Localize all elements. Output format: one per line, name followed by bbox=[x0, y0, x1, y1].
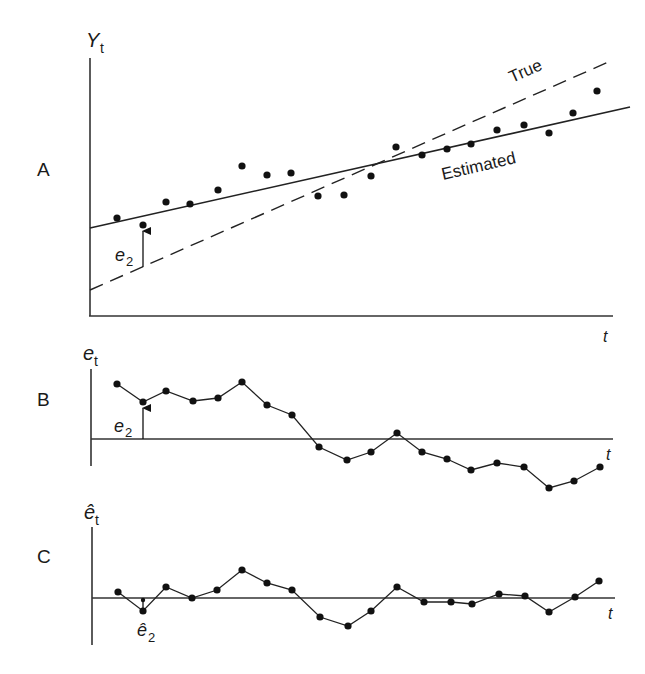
estimated-regression-line bbox=[90, 107, 630, 228]
data-point bbox=[162, 198, 169, 205]
data-point bbox=[493, 126, 500, 133]
y-axis-label-subscript: t bbox=[94, 353, 98, 369]
e2-hat-label-sub: 2 bbox=[148, 630, 155, 645]
data-point bbox=[545, 484, 552, 491]
data-point bbox=[113, 380, 120, 387]
data-point bbox=[596, 463, 603, 470]
e2-label-b-base: e bbox=[114, 416, 124, 436]
data-point bbox=[393, 429, 400, 436]
data-point bbox=[288, 411, 295, 418]
data-point bbox=[186, 200, 193, 207]
data-point bbox=[238, 378, 245, 385]
e2-label-b: e 2 bbox=[114, 416, 132, 440]
data-point bbox=[238, 566, 245, 573]
y-axis-label-subscript: t bbox=[95, 512, 99, 528]
panel-b-error-series bbox=[117, 382, 600, 488]
data-point bbox=[521, 592, 528, 599]
e2-label-b-sub: 2 bbox=[125, 425, 132, 440]
data-point bbox=[447, 598, 454, 605]
data-point bbox=[188, 594, 195, 601]
data-point bbox=[316, 613, 323, 620]
data-point bbox=[139, 221, 146, 228]
data-point bbox=[571, 593, 578, 600]
panel-b-points bbox=[113, 378, 603, 491]
true-regression-line bbox=[90, 60, 613, 290]
data-point bbox=[493, 459, 500, 466]
data-point bbox=[287, 169, 294, 176]
panel-c-label: C bbox=[37, 546, 51, 567]
data-point bbox=[162, 387, 169, 394]
y-axis-label-subscript: t bbox=[100, 40, 104, 56]
e2-label-a-sub: 2 bbox=[126, 254, 133, 269]
true-line-label: True bbox=[506, 55, 545, 86]
data-point bbox=[315, 443, 322, 450]
data-point bbox=[520, 121, 527, 128]
panel-a-y-label: Y t bbox=[86, 29, 104, 56]
data-point bbox=[263, 401, 270, 408]
y-axis-label: ê bbox=[84, 501, 95, 523]
e2-hat-label-base: ê bbox=[137, 620, 147, 640]
data-point bbox=[263, 579, 270, 586]
data-point bbox=[189, 397, 196, 404]
data-point bbox=[162, 583, 169, 590]
e2-hat-label: ê 2 bbox=[137, 620, 155, 645]
data-point bbox=[343, 456, 350, 463]
data-point bbox=[263, 171, 270, 178]
data-point bbox=[392, 143, 399, 150]
data-point bbox=[467, 140, 474, 147]
data-point bbox=[595, 577, 602, 584]
e2-label-a-base: e bbox=[115, 245, 125, 265]
data-point bbox=[288, 586, 295, 593]
panel-a-label: A bbox=[37, 159, 50, 180]
data-point bbox=[418, 151, 425, 158]
data-point bbox=[214, 186, 221, 193]
data-point bbox=[340, 191, 347, 198]
data-point bbox=[367, 172, 374, 179]
data-point bbox=[545, 608, 552, 615]
data-point bbox=[314, 192, 321, 199]
data-point bbox=[569, 109, 576, 116]
estimated-line-label: Estimated bbox=[440, 148, 518, 184]
panel-b-label: B bbox=[37, 389, 50, 410]
data-point bbox=[139, 398, 146, 405]
data-point bbox=[420, 598, 427, 605]
panel-b: B e t t e 2 bbox=[37, 342, 613, 492]
data-point bbox=[467, 466, 474, 473]
e2-hat-marker-icon bbox=[141, 598, 145, 602]
data-point bbox=[367, 448, 374, 455]
data-point bbox=[214, 394, 221, 401]
y-axis-label: e bbox=[83, 342, 94, 364]
data-point bbox=[139, 607, 146, 614]
panel-c-y-label: ê t bbox=[84, 501, 99, 528]
data-point bbox=[495, 590, 502, 597]
data-point bbox=[344, 622, 351, 629]
data-point bbox=[418, 448, 425, 455]
panel-b-x-label: t bbox=[606, 446, 611, 463]
data-point bbox=[238, 162, 245, 169]
y-axis-label: Y bbox=[86, 29, 101, 51]
data-point bbox=[393, 583, 400, 590]
panel-a-points bbox=[113, 87, 600, 228]
panel-c-x-label: t bbox=[608, 605, 613, 622]
data-point bbox=[593, 87, 600, 94]
e2-label-a: e 2 bbox=[115, 245, 133, 269]
data-point bbox=[443, 455, 450, 462]
data-point bbox=[367, 607, 374, 614]
data-point bbox=[114, 588, 121, 595]
panel-a-x-label: t bbox=[603, 328, 608, 345]
regression-residuals-figure: A Y t t True Estimated e 2 bbox=[0, 0, 645, 674]
data-point bbox=[113, 214, 120, 221]
data-point bbox=[520, 463, 527, 470]
data-point bbox=[570, 477, 577, 484]
panel-a: A Y t t True Estimated e 2 bbox=[37, 29, 630, 345]
data-point bbox=[443, 145, 450, 152]
panel-b-y-label: e t bbox=[83, 342, 98, 369]
panel-c: C ê t t ê 2 bbox=[37, 501, 615, 645]
data-point bbox=[468, 600, 475, 607]
data-point bbox=[213, 586, 220, 593]
data-point bbox=[545, 129, 552, 136]
